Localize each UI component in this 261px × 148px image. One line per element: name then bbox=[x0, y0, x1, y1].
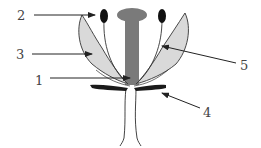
style bbox=[125, 15, 139, 85]
label-4: 4 bbox=[203, 106, 211, 119]
pistil bbox=[117, 8, 147, 85]
left-sepal bbox=[90, 85, 128, 91]
label-3: 3 bbox=[16, 48, 24, 61]
left-petal bbox=[79, 15, 128, 84]
label-2: 2 bbox=[17, 9, 25, 22]
left-anther bbox=[100, 9, 108, 23]
label-5: 5 bbox=[240, 59, 248, 72]
arrow-4 bbox=[162, 93, 200, 108]
stem bbox=[120, 88, 141, 146]
right-anther bbox=[158, 9, 166, 23]
right-sepal bbox=[134, 85, 166, 91]
label-1: 1 bbox=[35, 74, 43, 87]
